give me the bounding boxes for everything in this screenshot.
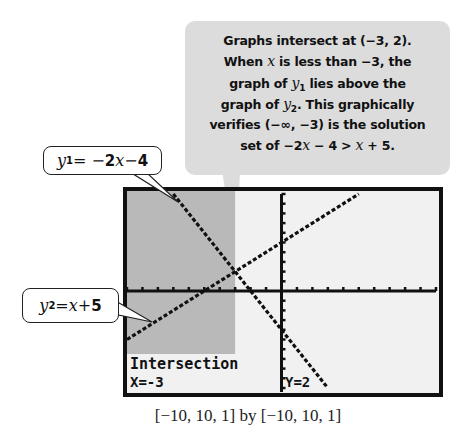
y2-equation-label: y2 = x + 5 — [22, 288, 119, 323]
callout-variable: x — [302, 137, 310, 153]
y-readout: Y=2 — [285, 374, 310, 390]
x-readout: X=-3 — [130, 374, 164, 390]
callout-line: graph of y1 lies above the — [191, 73, 444, 94]
callout-text: lies above the — [305, 76, 406, 91]
y2-var: y — [39, 296, 48, 315]
callout-text: . This graphically — [297, 97, 414, 112]
y2-op: + — [78, 296, 91, 315]
window-caption: [−10, 10, 1] by [−10, 10, 1] — [0, 406, 456, 426]
callout-text: graph of — [221, 97, 283, 112]
callout-line: When x is less than −3, the — [191, 51, 444, 72]
y1-op: − — [124, 151, 137, 170]
callout-text: is less than −3, the — [275, 54, 411, 69]
y2-const: 5 — [91, 297, 101, 315]
callout-text: set of −2 — [240, 138, 302, 153]
y2-x: x — [69, 296, 78, 315]
y1-const: 4 — [138, 152, 148, 170]
callout-text: − 4 > — [310, 138, 356, 153]
y1-equation-label: y1 = −2x − 4 — [43, 146, 162, 175]
y1-var: y — [57, 151, 66, 170]
callout-variable: x — [267, 53, 275, 69]
callout-line: verifies (−∞, −3) is the solution — [191, 115, 444, 135]
y2-eq-sign: = — [55, 296, 68, 315]
y1-coef: 2 — [105, 152, 115, 170]
callout-line: graph of y2. This graphically — [191, 94, 444, 115]
callout-text: When — [224, 54, 267, 69]
callout-variable: y — [283, 96, 291, 112]
callout-line: Graphs intersect at (−3, 2). — [191, 31, 444, 51]
y1-x: x — [115, 151, 124, 170]
y1-eq-sign: = − — [73, 151, 105, 170]
callout-text: verifies (−∞, −3) is the solution — [209, 117, 425, 132]
callout-line: set of −2x − 4 > x + 5. — [191, 135, 444, 156]
callout-text: Graphs intersect at (−3, 2). — [223, 33, 411, 48]
trace-label: Intersection — [130, 355, 238, 373]
calculator-screen: Intersection X=-3 Y=2 — [125, 189, 441, 395]
callout-text: + 5. — [363, 138, 395, 153]
explanation-callout: Graphs intersect at (−3, 2).When x is le… — [185, 21, 450, 175]
callout-text: graph of — [229, 76, 291, 91]
